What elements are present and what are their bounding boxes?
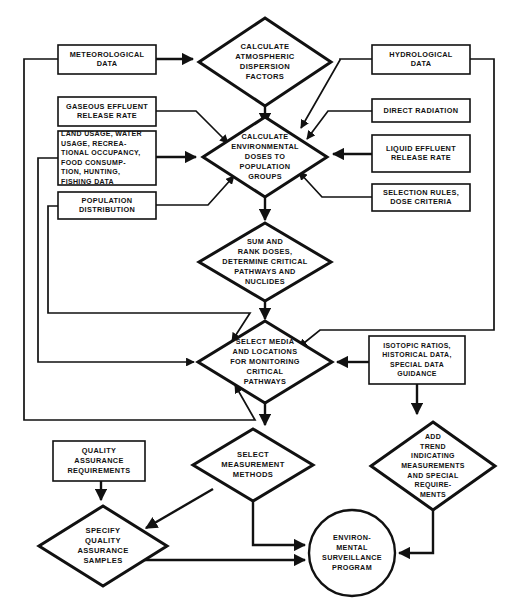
node-meteorological-data[interactable]: METEOROLOGICALDATA [58,45,156,74]
node-calc-env-doses[interactable]: CALCULATEENVIRONMENTALDOSES TOPOPULATION… [203,117,327,197]
edge-population-to-calc-env-doses [156,176,234,205]
node-isotopic-ratios[interactable]: ISOTOPIC RATIOS,HISTORICAL DATA,SPECIAL … [369,336,465,384]
node-population-distribution[interactable]: POPULATIONDISTRIBUTION [58,192,156,219]
node-direct-radiation[interactable]: DIRECT RADIATION [372,99,470,122]
node-add-trend[interactable]: ADDTRENDINDICATINGMEASUREMENTSAND SPECIA… [371,422,495,510]
edge-gaseous-to-calc-env-doses [156,111,228,143]
edge-select-measurement-to-specify-qa [146,489,213,528]
node-label-population-distribution: POPULATIONDISTRIBUTION [79,195,135,214]
node-calc-atmospheric[interactable]: CALCULATEATMOSPHERICDISPERSIONFACTORS [199,18,331,106]
edge-add-trend-to-surveillance [399,510,433,553]
node-label-liquid-effluent: LIQUID EFFLUENTRELEASE RATE [386,143,456,162]
node-label-selection-rules: SELECTION RULES,DOSE CRITERIA [383,187,459,206]
node-quality-assurance-req[interactable]: QUALITYASSURANCEREQUIREMENTS [53,441,145,481]
node-liquid-effluent[interactable]: LIQUID EFFLUENTRELEASE RATE [372,135,470,172]
node-hydrological-data[interactable]: HYDROLOGICALDATA [372,45,470,74]
node-gaseous-effluent[interactable]: GASEOUS EFFLUENTRELEASE RATE [58,97,156,126]
node-environmental-surveillance[interactable]: ENVIRON-MENTALSURVEILLANCEPROGRAM [309,510,395,596]
node-selection-rules[interactable]: SELECTION RULES,DOSE CRITERIA [372,184,470,211]
node-label-gaseous-effluent: GASEOUS EFFLUENTRELEASE RATE [66,101,148,120]
nodes-layer: METEOROLOGICALDATACALCULATEATMOSPHERICDI… [39,18,495,596]
edge-direct-radiation-to-calc-env-doses [307,111,372,139]
node-select-media[interactable]: SELECT MEDIAAND LOCATIONSFOR MONITORINGC… [198,321,332,403]
node-specify-qa-samples[interactable]: SPECIFYQUALITYASSURANCESAMPLES [39,506,167,586]
flowchart-canvas: METEOROLOGICALDATACALCULATEATMOSPHERICDI… [0,0,523,606]
node-sum-rank-doses[interactable]: SUM ANDRANK DOSES,DETERMINE CRITICALPATH… [199,223,331,301]
node-land-usage[interactable]: LAND USAGE, WATERUSAGE, RECREA-TIONAL OC… [58,130,156,185]
edge-select-measurement-to-surveillance [253,501,305,545]
edge-feedback-land-usage-to-select-media [38,158,194,362]
edge-selection-rules-to-calc-env-doses [299,172,372,197]
node-label-direct-radiation: DIRECT RADIATION [384,105,459,114]
